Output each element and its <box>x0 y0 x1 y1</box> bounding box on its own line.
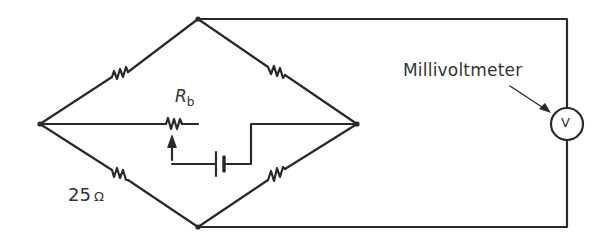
battery-loop <box>172 124 357 164</box>
resistor-rb <box>40 118 198 129</box>
resistor-left-bottom <box>40 124 198 227</box>
node-bottom <box>195 224 200 229</box>
slider-arrow-icon <box>167 134 177 148</box>
voltmeter-symbol: V <box>561 115 570 130</box>
rb-label-main: R <box>175 86 187 106</box>
circuit-diagram: Millivoltmeter 25Ω Rb V <box>0 0 615 244</box>
meter-pointer-line <box>510 86 545 109</box>
circuit-svg <box>0 0 615 244</box>
node-left <box>37 121 42 126</box>
resistance-unit: Ω <box>94 189 104 204</box>
resistor-bottom-right <box>198 124 357 227</box>
resistor-top-right <box>198 19 357 124</box>
resistance-label: 25Ω <box>68 184 104 205</box>
node-top <box>195 16 200 21</box>
millivoltmeter-label: Millivoltmeter <box>403 60 522 80</box>
rb-label-sub: b <box>187 95 195 109</box>
resistance-value: 25 <box>68 184 91 205</box>
rb-label: Rb <box>175 86 194 109</box>
battery-icon <box>216 152 224 176</box>
node-right <box>354 121 359 126</box>
meter-pointer-arrowhead <box>539 103 551 113</box>
